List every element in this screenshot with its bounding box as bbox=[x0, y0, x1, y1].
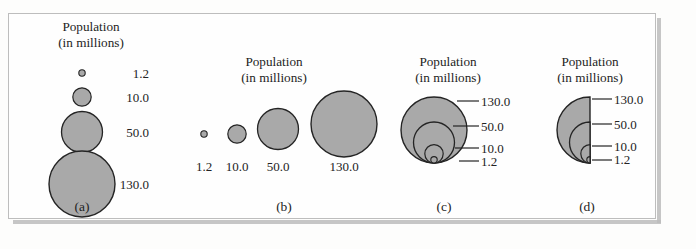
panel-b: Population (in millions) 1.2 10.0 50.0 1… bbox=[174, 14, 379, 218]
panel-c-bubbles bbox=[379, 14, 522, 218]
panel-c-label-1: 1.2 bbox=[481, 155, 497, 168]
bubble-b-3 bbox=[258, 109, 299, 150]
panel-d-tag: (d) bbox=[562, 200, 612, 214]
panel-c-tag: (c) bbox=[419, 200, 469, 214]
panel-b-label-4: 130.0 bbox=[321, 160, 367, 173]
panel-a-label-1: 1.2 bbox=[101, 67, 149, 80]
panel-a: Population (in millions) 1.2 10.0 50.0 1… bbox=[9, 14, 174, 218]
panel-a-label-2: 10.0 bbox=[101, 91, 149, 104]
halfbubble-d-1 bbox=[587, 157, 590, 163]
panel-d-label-130: 130.0 bbox=[614, 93, 643, 106]
bubble-c-1 bbox=[431, 157, 437, 163]
bubble-b-4 bbox=[311, 91, 377, 157]
panel-a-bubbles bbox=[9, 14, 174, 218]
bubble-a-3 bbox=[62, 112, 103, 153]
plate-shadow-bottom bbox=[13, 220, 661, 224]
bubble-b-2 bbox=[228, 125, 246, 143]
bubble-a-1 bbox=[79, 70, 85, 76]
panel-c-label-50: 50.0 bbox=[481, 120, 504, 133]
panel-d: Population (in millions) 130.0 50.0 10.0… bbox=[522, 14, 657, 218]
bubble-a-2 bbox=[73, 88, 91, 106]
panel-a-tag: (a) bbox=[57, 200, 107, 214]
panel-c-label-130: 130.0 bbox=[481, 95, 510, 108]
panel-b-label-2: 10.0 bbox=[217, 160, 257, 173]
bubble-b-1 bbox=[201, 131, 207, 137]
panel-b-bubbles bbox=[174, 14, 379, 218]
panel-b-label-3: 50.0 bbox=[258, 160, 298, 173]
panel-b-tag: (b) bbox=[259, 200, 309, 214]
panel-a-label-3: 50.0 bbox=[101, 126, 149, 139]
panel-d-bubbles bbox=[522, 14, 657, 218]
panel-c: Population (in millions) 130.0 50.0 10.0… bbox=[379, 14, 522, 218]
figure-root: Population (in millions) 1.2 10.0 50.0 1… bbox=[0, 0, 696, 249]
panel-d-label-50: 50.0 bbox=[614, 118, 637, 131]
panel-a-label-4: 130.0 bbox=[101, 178, 149, 191]
plate-shadow-right bbox=[657, 18, 661, 223]
figure-plate: Population (in millions) 1.2 10.0 50.0 1… bbox=[8, 13, 656, 219]
panel-d-label-1: 1.2 bbox=[614, 153, 630, 166]
